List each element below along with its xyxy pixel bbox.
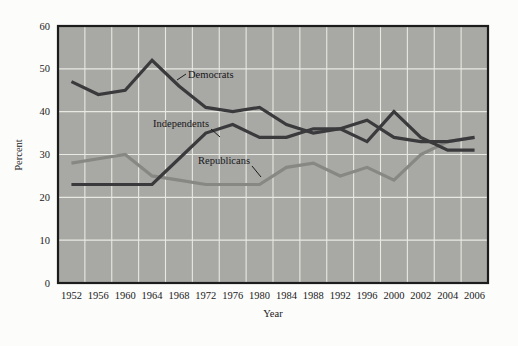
democrats-series-label: Democrats bbox=[188, 69, 233, 80]
x-tick-label: 1988 bbox=[303, 290, 324, 301]
y-tick-label: 20 bbox=[40, 192, 51, 203]
chart-figure: 0102030405060 19521956196019641968197219… bbox=[0, 0, 518, 346]
x-tick-label: 1996 bbox=[357, 290, 378, 301]
x-tick-label: 2002 bbox=[410, 290, 431, 301]
y-tick-label: 40 bbox=[40, 106, 51, 117]
y-tick-label: 30 bbox=[40, 149, 51, 160]
x-tick-label: 2004 bbox=[437, 290, 459, 301]
y-axis-title: Percent bbox=[13, 139, 24, 171]
party-identification-line-chart: 0102030405060 19521956196019641968197219… bbox=[0, 0, 518, 346]
x-tick-label: 2006 bbox=[464, 290, 485, 301]
x-tick-label: 1960 bbox=[115, 290, 136, 301]
x-tick-label: 1984 bbox=[276, 290, 298, 301]
x-tick-label: 1964 bbox=[142, 290, 164, 301]
x-tick-label: 1992 bbox=[330, 290, 351, 301]
y-tick-label: 50 bbox=[40, 63, 51, 74]
x-tick-label: 1952 bbox=[61, 290, 82, 301]
independents-series-label: Independents bbox=[153, 118, 209, 129]
y-tick-label: 10 bbox=[40, 235, 51, 246]
x-tick-label: 1968 bbox=[168, 290, 189, 301]
x-tick-label: 1972 bbox=[195, 290, 216, 301]
x-tick-label: 1980 bbox=[249, 290, 270, 301]
republicans-series-label: Republicans bbox=[198, 155, 250, 166]
y-tick-label: 0 bbox=[45, 278, 50, 289]
x-tick-label: 1976 bbox=[222, 290, 243, 301]
y-tick-label: 60 bbox=[40, 21, 51, 32]
x-axis-title: Year bbox=[263, 308, 283, 319]
x-tick-label: 1956 bbox=[88, 290, 109, 301]
x-tick-label: 2000 bbox=[383, 290, 404, 301]
